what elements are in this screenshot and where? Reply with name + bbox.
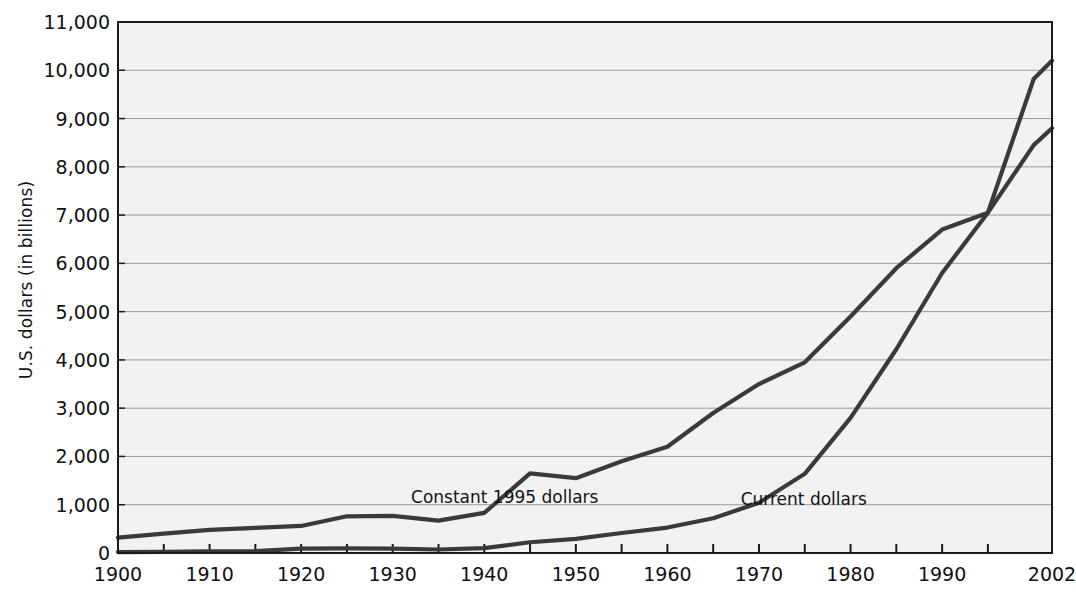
x-axis-tick-label: 2002: [1028, 565, 1076, 584]
x-axis-tick-label: 1940: [460, 565, 508, 584]
x-axis-tick-label: 1910: [185, 565, 233, 584]
x-axis-tick-label: 1900: [94, 565, 142, 584]
x-axis-tick-label: 1960: [643, 565, 691, 584]
x-axis-tick-label: 1970: [735, 565, 783, 584]
x-axis-tick-label: 1980: [826, 565, 874, 584]
x-axis-tick-label: 1990: [918, 565, 966, 584]
series-label-0: Constant 1995 dollars: [411, 489, 598, 506]
x-axis-tick-label: 1930: [369, 565, 417, 584]
x-axis-tick-label: 1950: [552, 565, 600, 584]
x-axis-tick-label: 1920: [277, 565, 325, 584]
series-label-1: Current dollars: [741, 491, 867, 508]
